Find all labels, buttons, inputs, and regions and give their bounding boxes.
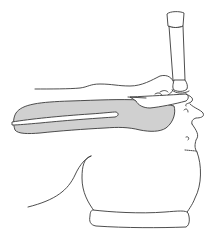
laryngoscope-handle (167, 12, 189, 94)
head-pillow (90, 210, 190, 228)
tongue-outline (35, 75, 174, 95)
laryngoscope-illustration (0, 0, 216, 240)
neck-and-shoulder (28, 152, 201, 214)
head-profile (184, 94, 203, 152)
